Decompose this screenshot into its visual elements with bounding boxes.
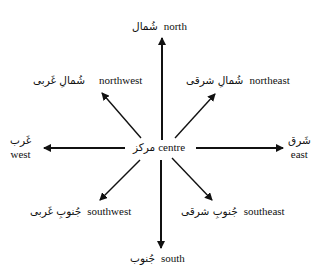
label-west-english: west xyxy=(10,148,31,160)
arrow-southeast xyxy=(172,158,212,200)
label-south: جُنوبsouth xyxy=(130,252,185,264)
label-southeast-english: southeast xyxy=(244,205,285,217)
arrow-southwest xyxy=(100,160,140,200)
label-east: شَرق east xyxy=(288,134,311,160)
label-centre: مرکزcentre xyxy=(133,141,185,153)
label-northeast-arabic: شُمالِ شرقی xyxy=(186,74,243,86)
arrow-northeast xyxy=(175,94,215,138)
label-east-english: east xyxy=(288,148,311,160)
label-centre-arabic: مرکز xyxy=(133,141,155,153)
label-southeast-arabic: جُنوبِ شرقی xyxy=(181,205,238,217)
label-southeast: جُنوبِ شرقیsoutheast xyxy=(181,205,285,217)
label-west: غَرب west xyxy=(10,134,31,160)
label-east-arabic: شَرق xyxy=(288,134,311,146)
label-south-arabic: جُنوب xyxy=(130,252,155,264)
label-northwest: شُمالِ غَربیnorthwest xyxy=(33,74,142,86)
arrow-northwest xyxy=(102,93,141,138)
label-west-arabic: غَرب xyxy=(10,134,31,146)
label-northwest-arabic: شُمالِ غَربی xyxy=(33,74,85,86)
label-northeast-english: northeast xyxy=(249,74,289,86)
label-southwest: جُنوبِ غَربیsouthwest xyxy=(30,205,131,217)
label-northeast: شُمالِ شرقیnortheast xyxy=(186,74,290,86)
compass-arrows xyxy=(0,0,325,274)
label-south-english: south xyxy=(161,252,185,264)
label-northwest-english: northwest xyxy=(99,74,142,86)
label-north: شُمالnorth xyxy=(132,20,187,32)
label-southwest-arabic: جُنوبِ غَربی xyxy=(30,205,81,217)
label-north-arabic: شُمال xyxy=(132,20,158,32)
label-north-english: north xyxy=(164,20,187,32)
label-centre-english: centre xyxy=(158,141,185,153)
label-southwest-english: southwest xyxy=(87,205,131,217)
